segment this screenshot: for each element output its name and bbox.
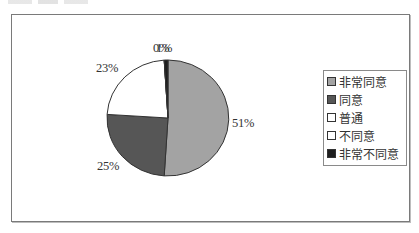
legend-swatch-icon bbox=[327, 113, 336, 122]
legend-item-neutral: 普通 bbox=[327, 109, 363, 125]
chart-legend: 非常同意 同意 普通 不同意 非常不同意 bbox=[323, 70, 407, 166]
legend-label: 同意 bbox=[339, 91, 363, 108]
legend-item-disagree: 不同意 bbox=[327, 127, 375, 143]
data-label-strongly-disagree: 1% bbox=[156, 41, 172, 56]
legend-swatch-icon bbox=[327, 149, 336, 158]
legend-swatch-icon bbox=[327, 95, 336, 104]
legend-item-agree: 同意 bbox=[327, 91, 363, 107]
legend-item-strongly-disagree: 非常不同意 bbox=[327, 145, 399, 161]
legend-label: 非常不同意 bbox=[339, 145, 399, 162]
legend-item-strongly-agree: 非常同意 bbox=[327, 73, 387, 89]
slice-strongly-agree bbox=[164, 60, 229, 176]
legend-label: 非常同意 bbox=[339, 73, 387, 90]
legend-label: 不同意 bbox=[339, 127, 375, 144]
legend-label: 普通 bbox=[339, 109, 363, 126]
legend-swatch-icon bbox=[327, 77, 336, 86]
data-label-agree: 25% bbox=[97, 159, 119, 174]
data-label-strongly-agree: 51% bbox=[232, 116, 254, 131]
legend-swatch-icon bbox=[327, 131, 336, 140]
data-label-neutral: 23% bbox=[96, 61, 118, 76]
